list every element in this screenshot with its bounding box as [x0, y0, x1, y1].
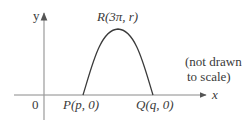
point-p-label: P(p, 0)	[62, 97, 99, 112]
x-axis-label: x	[211, 87, 218, 102]
graph-diagram: y x 0 R(3π, r) P(p, 0) Q(q, 0) (not draw…	[0, 0, 249, 123]
y-axis-label: y	[33, 8, 40, 23]
note-line-2: to scale)	[187, 69, 231, 84]
curve	[83, 29, 153, 95]
point-q-label: Q(q, 0)	[136, 97, 174, 112]
peak-label: R(3π, r)	[96, 9, 138, 24]
origin-label: 0	[32, 97, 39, 112]
note-line-1: (not drawn	[185, 54, 242, 69]
